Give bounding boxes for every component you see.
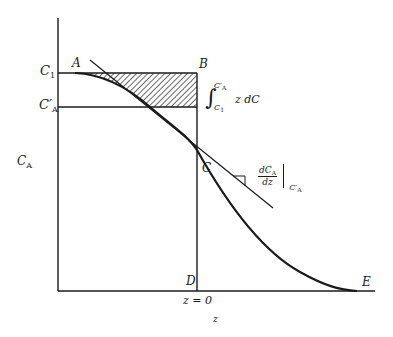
- point-e-label: E: [362, 275, 371, 289]
- x-axis-label: z: [213, 314, 218, 324]
- y-axis-label: CA: [17, 154, 32, 168]
- z-origin-label: z = 0: [183, 294, 212, 307]
- integral-lower-limit: C1: [214, 103, 224, 112]
- cprime-tick-label: C′A: [39, 97, 58, 112]
- point-b-label: B: [199, 57, 208, 71]
- point-d-label: D: [186, 274, 196, 288]
- integrand: z dC: [235, 93, 260, 106]
- diagram-canvas: [0, 0, 393, 337]
- c1-tick-label: C1: [40, 63, 55, 78]
- point-a-label: A: [72, 56, 81, 70]
- integral-upper-limit: C′A: [214, 81, 226, 90]
- point-c-label: C: [202, 161, 211, 175]
- derivative-annotation: dCA dz C′A: [258, 164, 301, 188]
